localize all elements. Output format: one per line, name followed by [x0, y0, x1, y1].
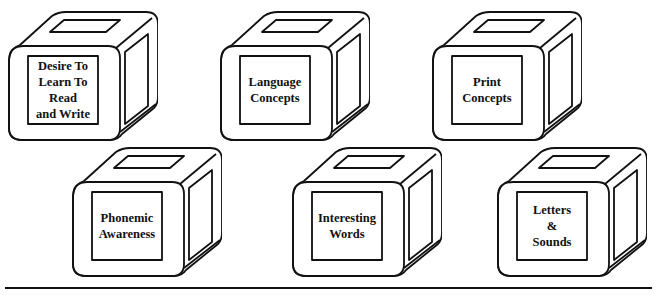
block-label: Letters & Sounds — [517, 192, 587, 260]
block-letters-sounds: Letters & Sounds — [495, 146, 647, 278]
block-label: Desire To Learn To Read and Write — [28, 56, 98, 124]
block-label: Phonemic Awareness — [92, 192, 162, 260]
bottom-rule-divider — [5, 287, 652, 289]
block-label: Language Concepts — [240, 56, 310, 124]
block-interesting-words: Interesting Words — [290, 146, 442, 278]
block-print-concepts: Print Concepts — [430, 10, 582, 142]
block-label: Print Concepts — [452, 56, 522, 124]
block-language-concepts: Language Concepts — [218, 10, 370, 142]
block-phonemic-awareness: Phonemic Awareness — [70, 146, 222, 278]
block-desire-to-learn: Desire To Learn To Read and Write — [6, 10, 158, 142]
block-label: Interesting Words — [312, 192, 382, 260]
